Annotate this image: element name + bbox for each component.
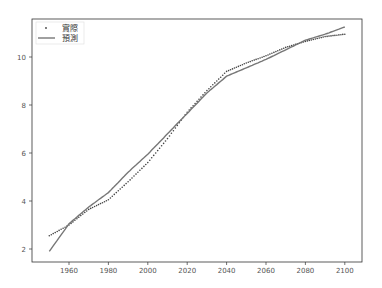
x-axis: 19601980200020202040206020802100 [60, 262, 354, 275]
y-tick-label: 2 [22, 246, 26, 254]
chart: 246810 19601980200020202040206020802100 … [0, 0, 382, 288]
x-tick-label: 1980 [99, 267, 117, 275]
x-tick-label: 2100 [336, 267, 354, 275]
x-tick-label: 2040 [218, 267, 236, 275]
x-tick-label: 2080 [296, 267, 314, 275]
legend-dot-icon [45, 27, 47, 29]
y-tick-label: 4 [22, 198, 27, 206]
legend-label-predicted: 預測 [62, 33, 78, 43]
plot-area [32, 19, 362, 262]
y-tick-label: 10 [17, 54, 26, 62]
legend-label-actual: 實際 [62, 23, 78, 33]
y-tick-label: 6 [22, 150, 27, 158]
y-tick-label: 8 [22, 102, 26, 110]
x-tick-label: 1960 [60, 267, 78, 275]
x-tick-label: 2020 [178, 267, 196, 275]
legend: 實際 預測 [36, 22, 84, 44]
x-tick-label: 2060 [257, 267, 275, 275]
x-tick-label: 2000 [139, 267, 157, 275]
y-axis: 246810 [17, 54, 32, 254]
